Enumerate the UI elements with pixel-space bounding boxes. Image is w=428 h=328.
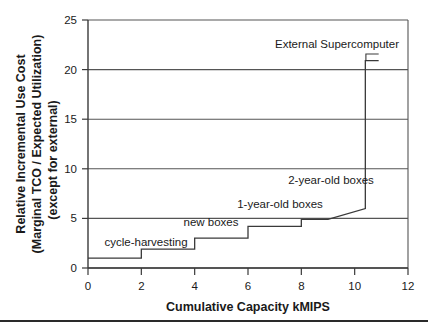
x-tick-label-4: 4 bbox=[191, 280, 198, 292]
y-tick-label-10: 10 bbox=[64, 163, 77, 175]
series-cost-curve bbox=[88, 61, 379, 258]
y-tick-label-15: 15 bbox=[64, 113, 77, 125]
annotation-2-year-old-boxes: 2-year-old boxes bbox=[288, 174, 374, 186]
x-tick-label-2: 2 bbox=[138, 280, 144, 292]
annotation-1-year-old-boxes: 1-year-old boxes bbox=[237, 198, 323, 210]
x-tick-label-12: 12 bbox=[402, 280, 415, 292]
x-tick-marks bbox=[88, 268, 408, 275]
y-axis-title-line3: (except for external) bbox=[46, 100, 60, 219]
leader-line-external-supercomputer bbox=[366, 54, 379, 61]
x-tick-label-0: 0 bbox=[85, 280, 91, 292]
annotation-external-supercomputer: External Supercomputer bbox=[275, 38, 399, 50]
y-axis-title-line2: (Marginal TCO / Expected Utilization) bbox=[30, 35, 44, 254]
annotation-new-boxes: new boxes bbox=[184, 216, 239, 228]
y-tick-label-20: 20 bbox=[64, 64, 77, 76]
annotation-cycle-harvesting: cycle-harvesting bbox=[104, 236, 187, 248]
x-tick-label-8: 8 bbox=[298, 280, 304, 292]
x-tick-label-10: 10 bbox=[348, 280, 361, 292]
chart-canvas: 25 20 15 10 5 0 0 2 4 6 8 10 12 Cumulati… bbox=[0, 0, 428, 328]
x-axis-title: Cumulative Capacity kMIPS bbox=[166, 300, 330, 314]
footer-divider bbox=[0, 320, 428, 322]
y-tick-marks bbox=[82, 20, 88, 268]
x-tick-label-6: 6 bbox=[245, 280, 251, 292]
y-axis-title-line1: Relative Incremental Use Cost bbox=[14, 54, 28, 234]
y-tick-label-25: 25 bbox=[64, 14, 77, 26]
y-tick-label-0: 0 bbox=[71, 262, 77, 274]
chart-figure: 25 20 15 10 5 0 0 2 4 6 8 10 12 Cumulati… bbox=[0, 0, 428, 328]
y-tick-label-5: 5 bbox=[71, 212, 77, 224]
